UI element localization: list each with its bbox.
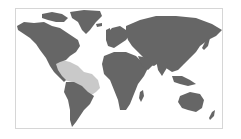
greenland [70, 10, 102, 34]
world-map [0, 0, 241, 139]
iceland [96, 23, 102, 27]
land-masses [17, 10, 222, 127]
madagascar [139, 90, 144, 102]
australia [178, 92, 204, 112]
arctic-islands [42, 12, 68, 22]
southeast-asia-islands [172, 76, 196, 86]
india [156, 60, 168, 76]
new-zealand [209, 110, 215, 120]
